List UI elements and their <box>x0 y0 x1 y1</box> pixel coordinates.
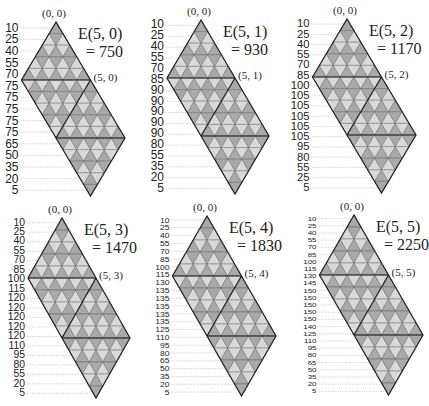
row-sum-label: 40 <box>287 230 317 236</box>
row-sum-label: 150 <box>287 316 317 322</box>
row-sum-label: 150 <box>287 295 317 301</box>
row-sum-label: 85 <box>287 252 317 258</box>
row-sum-label: 70 <box>287 244 317 250</box>
row-sum-label: 50 <box>287 367 317 373</box>
energy-value: = 2250 <box>384 237 429 253</box>
row-sum-label: 150 <box>287 288 317 294</box>
corner-coordinate-label: (5, 5) <box>392 267 416 278</box>
row-sum-label: 125 <box>287 331 317 337</box>
row-sum-label: 25 <box>287 223 317 229</box>
row-sum-label: 10 <box>287 216 317 222</box>
row-sum-label: 115 <box>287 266 317 272</box>
row-sum-label: 140 <box>287 324 317 330</box>
row-sum-label: 65 <box>287 360 317 366</box>
row-sum-label: 150 <box>287 302 317 308</box>
energy-title: E(5, 5) <box>376 219 420 235</box>
apex-coordinate-label: (0, 0) <box>340 201 364 212</box>
row-sum-label: 145 <box>287 280 317 286</box>
row-sum-label: 5 <box>287 388 317 394</box>
row-sum-label: 100 <box>287 259 317 265</box>
row-sum-label: 80 <box>287 352 317 358</box>
row-sum-label: 35 <box>287 374 317 380</box>
row-sum-label: 110 <box>287 338 317 344</box>
